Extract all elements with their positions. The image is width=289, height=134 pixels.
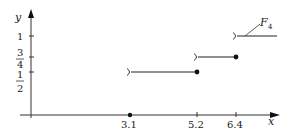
svg-text:4: 4 <box>268 23 273 31</box>
open-end-icon <box>127 69 130 76</box>
annotation-leader-line <box>245 24 260 36</box>
x-tick-label-6-4: 6.4 <box>227 119 243 130</box>
y-tick-label-3-4: 3 4 <box>16 47 24 70</box>
x-tick-label-5-2: 5.2 <box>188 119 204 130</box>
svg-text:F: F <box>259 16 268 29</box>
y-tick-label-1: 1 <box>17 31 23 42</box>
x-axis <box>20 112 280 118</box>
chart-canvas: y x 1 3 4 1 2 3.1 5.2 6.4 F 4 <box>0 0 289 134</box>
y-axis-label: y <box>14 11 22 24</box>
open-end-icon <box>233 33 236 40</box>
x-point-3-1 <box>128 113 132 117</box>
svg-text:3: 3 <box>17 47 23 58</box>
svg-text:2: 2 <box>17 83 23 94</box>
x-axis-label: x <box>268 115 275 128</box>
step-segment-2 <box>194 54 238 61</box>
y-axis-arrow-icon <box>28 9 34 18</box>
svg-text:1: 1 <box>17 69 23 80</box>
closed-dot-icon <box>234 55 239 60</box>
curve-label-F4: F 4 <box>259 16 273 31</box>
open-end-icon <box>194 54 197 61</box>
step-segment-1 <box>127 69 199 76</box>
closed-dot-icon <box>195 70 200 75</box>
x-tick-label-3-1: 3.1 <box>121 119 137 130</box>
step-function-chart: y x 1 3 4 1 2 3.1 5.2 6.4 F 4 <box>0 0 289 134</box>
y-axis <box>28 9 34 118</box>
y-tick-label-1-2: 1 2 <box>16 69 24 94</box>
